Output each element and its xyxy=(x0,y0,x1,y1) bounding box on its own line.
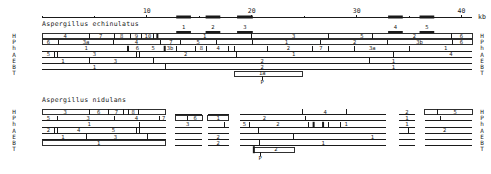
fragment-label: 2 xyxy=(217,140,220,146)
fragment-label: 3 xyxy=(292,33,295,39)
fragment-label: 6 xyxy=(460,39,463,45)
fragment-label: 8 xyxy=(132,109,135,115)
fragment-label: 1 xyxy=(84,45,87,51)
fragment-label: 1 xyxy=(405,115,408,121)
fragment-label: 7 xyxy=(169,39,172,45)
fragment-label: 3 xyxy=(86,115,89,121)
fragment-label: 5 xyxy=(112,127,115,133)
restriction-map-diagram: 10203040kb12345 Aspergillus echinulatusH… xyxy=(0,0,491,174)
thick-cut-mark xyxy=(322,122,324,127)
gene-marker-label: 2 xyxy=(211,24,214,30)
fragment-label: 2 xyxy=(353,39,356,45)
fragment-label: 3b xyxy=(416,39,423,45)
enzyme-label-right: T xyxy=(480,145,484,152)
fragment-label: 1 xyxy=(88,121,91,127)
fragment-label: 4 xyxy=(135,115,139,121)
scale-gene-block xyxy=(176,16,191,19)
gene-marker-label: 4 xyxy=(394,24,398,30)
enzyme-label-left: T xyxy=(12,145,16,152)
restriction-map-box xyxy=(425,109,472,114)
fragment-label: 1 xyxy=(321,140,324,146)
fragment-label: 9 xyxy=(135,33,138,39)
section-title: Aspergillus echinulatus xyxy=(42,20,139,28)
fragment-label: 1 xyxy=(392,58,395,64)
scale-gene-block xyxy=(420,16,435,19)
transcript-box xyxy=(235,71,302,76)
scale-unit-label: kb xyxy=(478,13,486,21)
scale-tick-label: 10 xyxy=(143,7,151,15)
section-aspergillus-nidulans: Aspergillus nidulansHH3678425PP53476121h… xyxy=(12,96,484,161)
fragment-label: 7 xyxy=(319,45,322,51)
fragment-label: 1 xyxy=(97,140,100,146)
gene-marker-bar xyxy=(206,31,221,33)
thick-cut-mark xyxy=(156,33,158,38)
restriction-map-box xyxy=(42,109,166,114)
fragment-label: 1 xyxy=(285,39,288,45)
gene-marker-bar xyxy=(237,31,253,33)
thick-cut-mark xyxy=(313,122,315,127)
fragment-label: 3a xyxy=(83,39,90,45)
promoter-label: P xyxy=(261,79,265,85)
restriction-map-box xyxy=(42,40,472,45)
thick-cut-mark xyxy=(127,46,129,51)
fragment-label: 5 xyxy=(47,51,50,57)
fragment-label: 1 xyxy=(93,64,96,70)
fragment-label: 2 xyxy=(287,45,290,51)
enzyme-label-left: T xyxy=(12,69,16,76)
fragment-label: 2 xyxy=(263,115,266,121)
scale-gene-block xyxy=(206,16,221,19)
restriction-map-box xyxy=(42,140,166,145)
fragment-label: 2 xyxy=(184,51,187,57)
fragment-label: 1 xyxy=(371,134,374,140)
gene-marker-bar xyxy=(176,31,191,33)
fragment-label: 3 xyxy=(63,109,66,115)
fragment-label: 3 xyxy=(186,121,189,127)
scale-tick-label: 30 xyxy=(353,7,361,15)
gene-marker-label: 1 xyxy=(182,24,185,30)
fragment-label: 3 xyxy=(114,134,117,140)
fragment-label: 8 xyxy=(120,33,123,39)
restriction-map-box xyxy=(42,33,472,38)
fragment-label: 5 xyxy=(152,45,155,51)
fragment-label: 1 xyxy=(217,115,220,121)
fragment-label: 2 xyxy=(443,127,446,133)
fragment-label: 2 xyxy=(405,109,408,115)
fragment-label: 7 xyxy=(99,33,102,39)
fragment-label: 8 xyxy=(200,45,203,51)
gene-marker-label: 3 xyxy=(243,24,246,30)
thick-cut-mark xyxy=(164,46,166,51)
fragment-label: 2 xyxy=(274,146,277,152)
fragment-label: 1 xyxy=(405,121,408,127)
fragment-label: 1 xyxy=(61,134,64,140)
fragment-label: 5 xyxy=(454,109,457,115)
fragment-label: 2 xyxy=(413,33,416,39)
fragment-label: 1 xyxy=(344,121,347,127)
fragment-label: 4 xyxy=(324,109,328,115)
fragment-label: 2 xyxy=(261,58,264,64)
fragment-label: 4 xyxy=(217,45,221,51)
fragment-label: 6 xyxy=(47,39,50,45)
fragment-label: 3 xyxy=(93,51,96,57)
fragment-label: 7 xyxy=(162,115,165,121)
fragment-label: 3 xyxy=(114,58,117,64)
thick-cut-mark xyxy=(253,146,255,153)
gene-marker-bar xyxy=(420,31,435,33)
scale-gene-block xyxy=(237,16,253,19)
section-title: Aspergillus nidulans xyxy=(42,96,126,104)
enzyme-label-right: T xyxy=(480,69,484,76)
fragment-label: 1 xyxy=(203,33,206,39)
promoter-label: P xyxy=(258,155,262,161)
fragment-label: 4 xyxy=(77,127,81,133)
fragment-label: 5 xyxy=(243,121,246,127)
fragment-label: 1 xyxy=(292,51,295,57)
fragment-label: 2 xyxy=(276,121,279,127)
scale-tick-label: 40 xyxy=(458,7,466,15)
fragment-label: 5 xyxy=(360,33,363,39)
fragment-label: 6 xyxy=(97,109,100,115)
fragment-label: 10 xyxy=(145,33,152,39)
fragment-label: 1 xyxy=(61,58,64,64)
fragment-label: 2 xyxy=(217,134,220,140)
fragment-label: 7 xyxy=(115,109,118,115)
fragment-label: 2 xyxy=(47,127,50,133)
fragment-label: 1a xyxy=(259,70,266,76)
